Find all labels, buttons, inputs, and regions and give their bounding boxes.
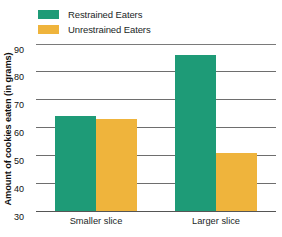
legend-label: Restrained Eaters <box>68 10 142 20</box>
legend-label: Unrestrained Eaters <box>68 25 151 35</box>
bar <box>55 116 96 211</box>
x-axis-tick-label: Larger slice <box>156 216 276 226</box>
legend-item-unrestrained-eaters: Unrestrained Eaters <box>38 23 228 36</box>
plot-area: 30405060708090Smaller sliceLarger slice <box>36 44 276 211</box>
y-axis-tick-label: 70 <box>14 101 34 110</box>
y-axis-tick-label: 80 <box>14 73 34 82</box>
bar <box>216 153 257 211</box>
y-axis-tick-label: 90 <box>14 46 34 55</box>
legend-item-restrained-eaters: Restrained Eaters <box>38 8 228 21</box>
y-axis-tick-label: 60 <box>14 129 34 138</box>
chart-legend: Restrained Eaters Unrestrained Eaters <box>38 8 228 38</box>
legend-swatch-icon <box>38 10 59 19</box>
bar <box>96 119 137 211</box>
x-axis-tick-label: Smaller slice <box>36 216 156 226</box>
y-axis-title: Amount of cookies eaten (in grams) <box>3 53 13 206</box>
gridline <box>36 44 276 45</box>
legend-swatch-icon <box>38 25 59 34</box>
y-axis-tick-label: 40 <box>14 185 34 194</box>
gridline <box>36 99 276 100</box>
bar-chart: Restrained Eaters Unrestrained Eaters Am… <box>0 0 282 237</box>
y-axis-tick-label: 30 <box>14 213 34 222</box>
y-axis-tick-label: 50 <box>14 157 34 166</box>
gridline <box>36 71 276 72</box>
bar <box>175 55 216 211</box>
